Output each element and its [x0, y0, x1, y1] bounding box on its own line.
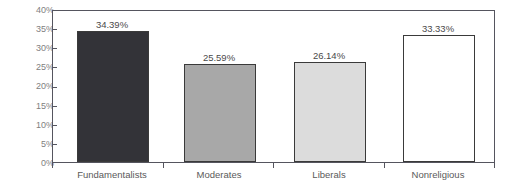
category-label-moderates: Moderates [197, 170, 242, 180]
bar-liberals [294, 62, 366, 162]
bar-chart: 40% 35% 30% 25% 20% 15% 10% 5% 0% 34.39%… [0, 0, 512, 195]
y-tick-label-40: 40% [14, 6, 54, 15]
y-tick-label-0: 0% [14, 159, 54, 168]
y-tick-mark-20 [53, 87, 57, 88]
value-label-moderates: 25.59% [203, 53, 235, 63]
y-tick-mark-5 [53, 144, 57, 145]
y-tick-mark-30 [53, 48, 57, 49]
y-tick-label-10: 10% [14, 121, 54, 130]
y-tick-label-5: 5% [14, 140, 54, 149]
category-label-nonreligious: Nonreligious [412, 170, 465, 180]
y-tick-label-25: 25% [14, 63, 54, 72]
x-tick-mark-2 [273, 163, 274, 168]
y-tick-mark-10 [53, 125, 57, 126]
y-tick-mark-35 [53, 29, 57, 30]
category-label-fundamentalists: Fundamentalists [77, 170, 147, 180]
x-tick-mark-3 [384, 163, 385, 168]
y-tick-mark-25 [53, 67, 57, 68]
x-tick-mark-0 [52, 163, 53, 168]
y-tick-label-20: 20% [14, 82, 54, 91]
y-tick-label-15: 15% [14, 102, 54, 111]
y-tick-mark-15 [53, 106, 57, 107]
value-label-liberals: 26.14% [313, 51, 345, 61]
category-label-liberals: Liberals [312, 170, 345, 180]
bar-nonreligious [403, 35, 475, 163]
x-tick-mark-4 [494, 163, 495, 168]
value-label-fundamentalists: 34.39% [96, 20, 128, 30]
bar-fundamentalists [77, 31, 149, 163]
x-tick-mark-1 [163, 163, 164, 168]
bar-moderates [184, 64, 256, 162]
value-label-nonreligious: 33.33% [422, 24, 454, 34]
y-tick-label-35: 35% [14, 25, 54, 34]
y-tick-label-30: 30% [14, 44, 54, 53]
